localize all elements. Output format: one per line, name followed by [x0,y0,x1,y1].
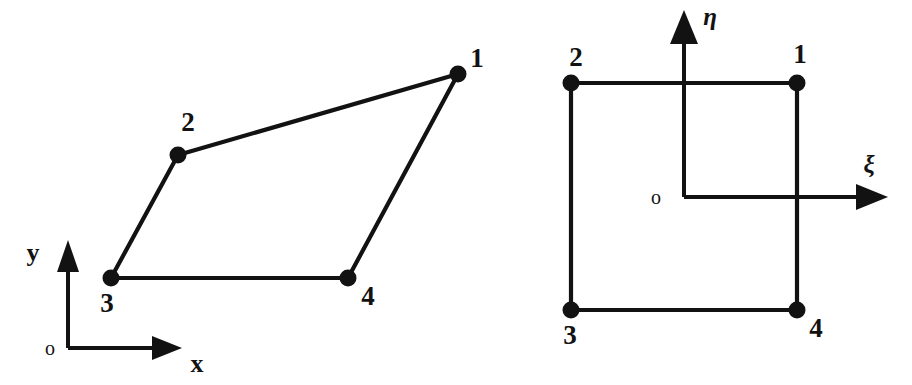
reference-node-4-label: 4 [809,313,823,343]
physical-node-3-label: 3 [100,288,114,318]
xi-axis-arrow-icon [856,184,888,210]
x-axis-arrow-icon [152,336,182,360]
y-axis-label: y [27,238,40,267]
physical-quadrilateral-outline [111,74,458,278]
physical-node-3-dot [103,270,120,287]
reference-origin-label: o [651,186,661,208]
reference-node-2-dot [563,75,580,92]
reference-element-panel: 1 2 3 4 η ξ o [563,3,889,350]
reference-node-3-label: 3 [563,320,577,350]
physical-node-4-label: 4 [361,281,375,311]
reference-node-2-label: 2 [569,42,583,72]
physical-node-2-dot [170,147,187,164]
reference-node-4-dot [789,302,806,319]
reference-node-1-dot [789,75,806,92]
physical-element-panel: 1 2 3 4 y x o [27,43,484,378]
physical-node-1-dot [450,66,467,83]
physical-node-4-dot [340,270,357,287]
eta-axis-label: η [703,3,717,30]
reference-node-3-dot [563,302,580,319]
x-axis-label: x [191,349,204,378]
physical-origin-label: o [45,337,55,359]
y-axis-arrow-icon [57,240,79,272]
eta-axis-arrow-icon [670,10,698,44]
isoparametric-mapping-figure: 1 2 3 4 y x o [0,0,912,385]
xi-axis-label: ξ [863,151,875,178]
reference-node-1-label: 1 [793,39,807,69]
physical-node-2-label: 2 [181,107,195,137]
diagram-canvas: 1 2 3 4 y x o [0,0,912,385]
physical-node-1-label: 1 [470,43,484,73]
